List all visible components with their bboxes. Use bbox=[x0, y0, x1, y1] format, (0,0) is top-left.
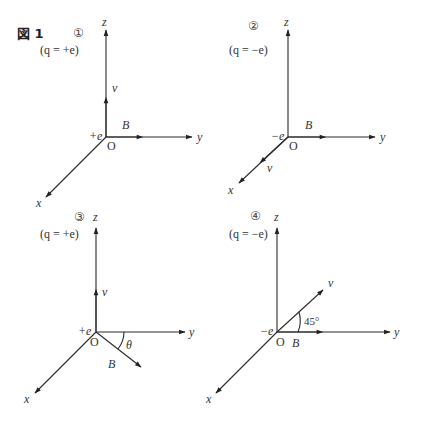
angle-arc bbox=[118, 332, 124, 349]
charge-condition: (q = −e) bbox=[229, 227, 268, 241]
y-axis-label: y bbox=[196, 130, 203, 144]
field-label: B⃗ bbox=[305, 118, 322, 132]
angle-label: θ bbox=[126, 338, 132, 352]
field-label: B⃗ bbox=[122, 118, 139, 132]
y-axis-label: y bbox=[188, 325, 195, 339]
panel-3: ③ (q = +e) z y x v⃗ B⃗ θ +e O bbox=[23, 210, 195, 406]
figure-title: 図 1 bbox=[17, 26, 44, 41]
origin-label: O bbox=[107, 139, 116, 153]
velocity-label: v⃗ bbox=[328, 276, 343, 290]
y-axis-label: y bbox=[393, 325, 400, 339]
x-axis-label: x bbox=[23, 392, 30, 406]
x-axis-label: x bbox=[205, 392, 212, 406]
charge-label: −e bbox=[271, 129, 285, 143]
panel-1: ① (q = +e) z y x v⃗ B⃗ +e O bbox=[35, 15, 203, 210]
z-axis-label: z bbox=[283, 15, 289, 29]
x-axis bbox=[46, 137, 106, 197]
x-axis bbox=[35, 332, 96, 393]
velocity-label: v⃗ bbox=[112, 81, 127, 95]
panel-number: ③ bbox=[74, 210, 85, 224]
panel-2: ② (q = −e) z y x v⃗ B⃗ −e O bbox=[227, 15, 386, 197]
angle-label: 45° bbox=[304, 315, 319, 327]
z-axis-label: z bbox=[273, 210, 279, 224]
origin-label: O bbox=[90, 335, 99, 349]
velocity-label: v⃗ bbox=[102, 285, 117, 299]
y-axis-label: y bbox=[379, 130, 386, 144]
x-axis bbox=[216, 332, 277, 393]
panel-4: ④ (q = −e) z y x v⃗ B⃗ 45° −e O bbox=[205, 209, 400, 406]
charge-condition: (q = +e) bbox=[40, 43, 79, 57]
origin-label: O bbox=[289, 139, 298, 153]
z-axis-label: z bbox=[101, 15, 107, 29]
charge-label: −e bbox=[260, 324, 274, 338]
figure-1: 図 1 ① (q = +e) z y x v⃗ B⃗ +e O ② (q = −… bbox=[0, 0, 421, 427]
charge-condition: (q = +e) bbox=[40, 227, 79, 241]
velocity-label: v⃗ bbox=[267, 161, 282, 175]
charge-label: +e bbox=[89, 129, 103, 143]
charge-condition: (q = −e) bbox=[229, 43, 268, 57]
field-label: B⃗ bbox=[108, 357, 125, 371]
x-axis-label: x bbox=[227, 183, 234, 197]
panel-number: ② bbox=[248, 19, 259, 33]
panel-number: ④ bbox=[250, 209, 261, 223]
panel-number: ① bbox=[73, 26, 84, 40]
z-axis-label: z bbox=[92, 210, 98, 224]
origin-label: O bbox=[276, 335, 285, 349]
x-axis-label: x bbox=[35, 196, 42, 210]
field-label: B⃗ bbox=[292, 336, 309, 350]
angle-arc bbox=[298, 312, 300, 332]
